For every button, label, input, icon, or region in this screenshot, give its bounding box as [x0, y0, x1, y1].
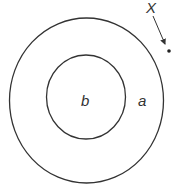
label-b: b: [81, 92, 89, 109]
arrow-to-point: [153, 16, 165, 44]
concentric-circles-diagram: b a X: [0, 0, 171, 189]
label-x: X: [145, 0, 157, 16]
label-a: a: [138, 92, 146, 109]
point-x: [167, 49, 171, 53]
